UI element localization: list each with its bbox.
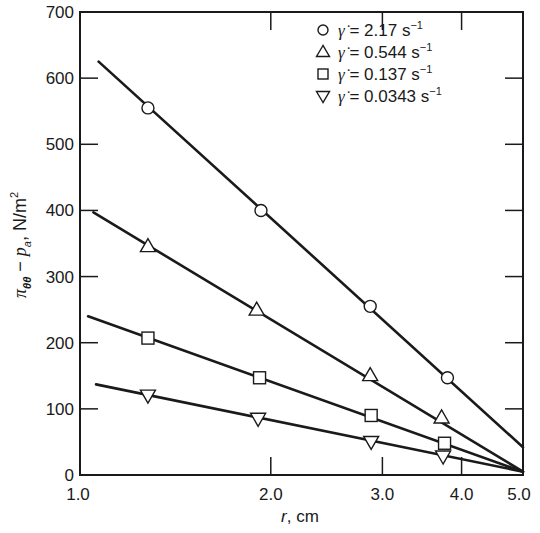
circle-marker [364, 300, 376, 312]
y-axis-ticks: 0100200300400500600700 [46, 3, 523, 485]
legend-label: γ̇ = 0.0343 s−1 [338, 85, 442, 106]
triangle-up-marker [317, 46, 330, 57]
y-tick-label: 0 [65, 466, 74, 485]
legend-item: γ̇ = 0.137 s−1 [318, 63, 432, 84]
x-tick-label: 3.0 [371, 485, 395, 504]
y-tick-label: 100 [46, 400, 74, 419]
legend-item: γ̇ = 0.544 s−1 [317, 41, 433, 62]
y-tick-label: 400 [46, 201, 74, 220]
circle-marker [441, 372, 453, 384]
x-tick-label: 4.0 [450, 485, 474, 504]
x-tick-label: 2.0 [259, 485, 283, 504]
series-lines [88, 62, 523, 472]
triangle-up-marker [140, 239, 155, 252]
square-marker [439, 437, 451, 449]
square-marker [365, 409, 377, 421]
legend-label: γ̇ = 2.17 s−1 [338, 19, 423, 40]
fit-line [96, 384, 523, 471]
legend-label: γ̇ = 0.544 s−1 [338, 41, 432, 62]
triangle-down-marker [317, 92, 330, 103]
legend-label: γ̇ = 0.137 s−1 [338, 63, 432, 84]
y-tick-label: 200 [46, 334, 74, 353]
x-tick-label: 5.0 [507, 485, 531, 504]
legend: γ̇ = 2.17 s−1γ̇ = 0.544 s−1γ̇ = 0.137 s−… [317, 19, 442, 106]
y-axis-label: πθθ − pa, N/m2 [8, 192, 33, 298]
legend-item: γ̇ = 2.17 s−1 [318, 19, 423, 40]
square-marker [142, 332, 154, 344]
series-markers [140, 102, 453, 464]
legend-item: γ̇ = 0.0343 s−1 [317, 85, 442, 106]
chart-container: 1.02.03.04.05.0 0100200300400500600700 γ… [0, 0, 540, 533]
x-axis-label: r, cm [281, 507, 319, 526]
chart-svg: 1.02.03.04.05.0 0100200300400500600700 γ… [0, 0, 540, 533]
x-axis-ticks: 1.02.03.04.05.0 [66, 12, 531, 504]
circle-marker [318, 25, 328, 35]
y-tick-label: 500 [46, 135, 74, 154]
square-marker [254, 372, 266, 384]
triangle-up-marker [434, 410, 449, 423]
circle-marker [142, 102, 154, 114]
y-tick-label: 300 [46, 268, 74, 287]
triangle-up-marker [363, 368, 378, 381]
x-tick-label: 1.0 [66, 485, 90, 504]
square-marker [318, 69, 328, 79]
y-tick-label: 600 [46, 69, 74, 88]
circle-marker [255, 204, 267, 216]
y-tick-label: 700 [46, 3, 74, 22]
